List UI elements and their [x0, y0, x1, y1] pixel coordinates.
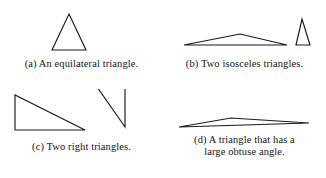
right-triangle-left-path [15, 95, 85, 130]
isosceles-triangle-narrow-path [296, 19, 310, 45]
caption-c: (c) Two right triangles. [0, 141, 163, 153]
caption-a: (a) An equilateral triangle. [0, 58, 163, 70]
caption-d-line2: large obtuse angle. [163, 146, 326, 158]
right-triangles-shape [0, 89, 163, 178]
panel-a: (a) An equilateral triangle. [0, 0, 163, 89]
panel-b: (b) Two isosceles triangles. [163, 0, 326, 89]
triangle-figure: (a) An equilateral triangle. (b) Two iso… [0, 0, 326, 178]
caption-d: (d) A triangle that has a large obtuse a… [163, 134, 326, 157]
equilateral-triangle-path [52, 14, 86, 50]
caption-b: (b) Two isosceles triangles. [163, 58, 326, 70]
isosceles-triangle-wide-path [184, 34, 287, 45]
isosceles-triangles-shape [163, 0, 326, 89]
equilateral-triangle-shape [0, 0, 163, 89]
panel-c: (c) Two right triangles. [0, 89, 163, 178]
right-triangle-right-path [95, 89, 125, 127]
obtuse-triangle-path [179, 118, 309, 127]
caption-d-line1: (d) A triangle that has a [194, 134, 295, 145]
panel-d: (d) A triangle that has a large obtuse a… [163, 89, 326, 178]
